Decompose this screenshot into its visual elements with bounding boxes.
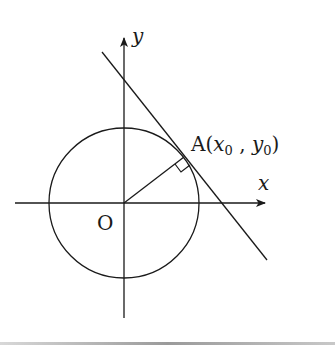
radius-oa xyxy=(124,157,184,203)
origin-label: O xyxy=(97,211,113,235)
right-angle-marker xyxy=(175,164,190,172)
point-a-label: A(x0 , y0) xyxy=(190,132,279,158)
x-axis-label: x xyxy=(258,171,269,195)
tangent-diagram: y x O A(x0 , y0) xyxy=(0,0,335,345)
diagram-canvas: y x O A(x0 , y0) xyxy=(0,0,335,345)
y-axis-label: y xyxy=(131,24,144,48)
tangent-line xyxy=(102,52,267,260)
